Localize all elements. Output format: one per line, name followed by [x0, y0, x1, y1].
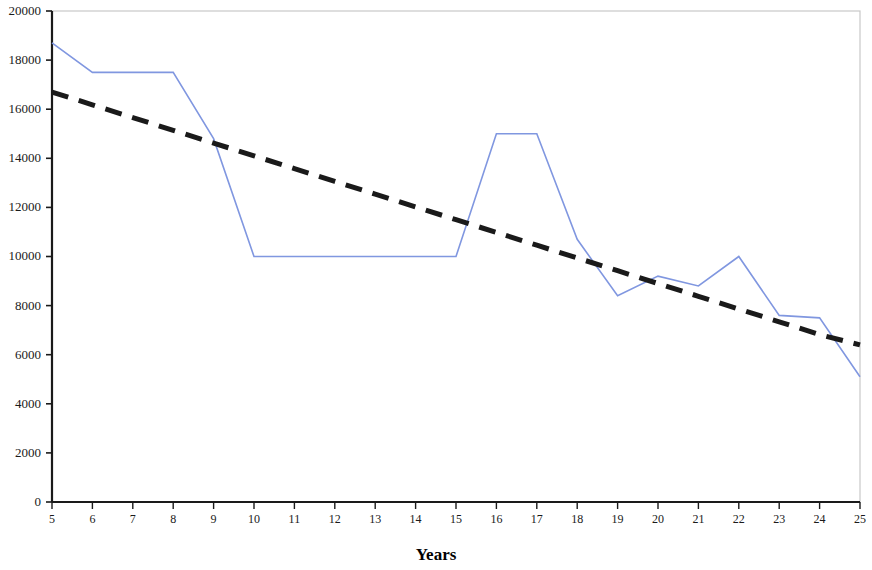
x-tick-label: 12 — [329, 512, 341, 526]
y-tick-label: 16000 — [9, 101, 42, 116]
y-tick-label: 8000 — [15, 298, 41, 313]
x-tick-label: 17 — [531, 512, 543, 526]
y-tick-label: 10000 — [9, 248, 42, 263]
x-axis-title: Years — [416, 545, 457, 564]
y-tick-label: 12000 — [9, 199, 42, 214]
y-tick-label: 6000 — [15, 347, 41, 362]
chart-background — [0, 0, 872, 570]
x-tick-labels: 5678910111213141516171819202122232425 — [49, 512, 866, 526]
x-tick-label: 15 — [450, 512, 462, 526]
chart-container: 0200040006000800010000120001400016000180… — [0, 0, 872, 570]
line-chart: 0200040006000800010000120001400016000180… — [0, 0, 872, 570]
x-tick-label: 8 — [170, 512, 176, 526]
x-tick-label: 9 — [211, 512, 217, 526]
x-tick-label: 10 — [248, 512, 260, 526]
x-tick-label: 6 — [89, 512, 95, 526]
x-tick-label: 16 — [490, 512, 502, 526]
x-tick-label: 23 — [773, 512, 785, 526]
x-tick-label: 21 — [692, 512, 704, 526]
x-tick-label: 20 — [652, 512, 664, 526]
x-axis — [52, 502, 860, 509]
y-tick-label: 18000 — [9, 52, 42, 67]
y-tick-label: 0 — [35, 494, 42, 509]
x-tick-label: 24 — [814, 512, 826, 526]
y-tick-label: 20000 — [9, 3, 42, 18]
y-tick-label: 2000 — [15, 445, 41, 460]
x-tick-label: 18 — [571, 512, 583, 526]
x-tick-label: 22 — [733, 512, 745, 526]
x-tick-label: 11 — [289, 512, 301, 526]
x-tick-label: 14 — [410, 512, 422, 526]
x-tick-label: 19 — [612, 512, 624, 526]
y-tick-label: 14000 — [9, 150, 42, 165]
x-tick-label: 7 — [130, 512, 136, 526]
x-tick-label: 25 — [854, 512, 866, 526]
x-tick-label: 5 — [49, 512, 55, 526]
y-tick-label: 4000 — [15, 396, 41, 411]
x-tick-label: 13 — [369, 512, 381, 526]
